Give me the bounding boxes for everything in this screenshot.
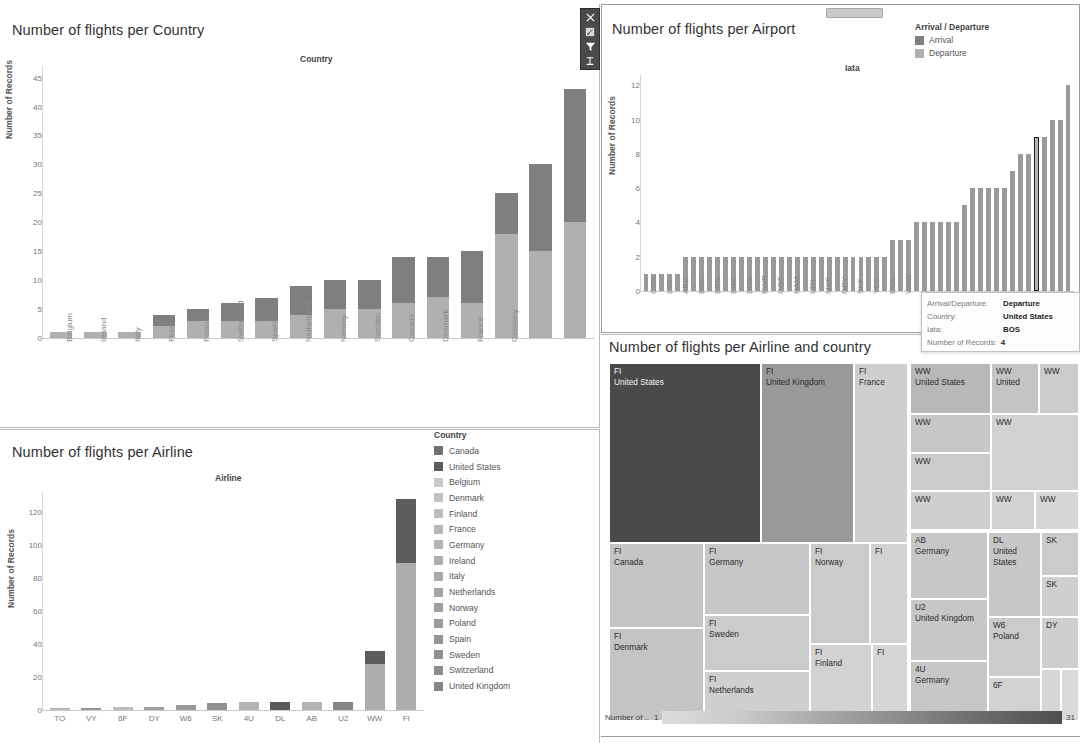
airline-bars[interactable] [44, 492, 422, 710]
x-axis-label[interactable]: Belgium [65, 313, 74, 342]
treemap-color-legend[interactable]: Number of .. 1 31 [605, 711, 1075, 724]
treemap-tile[interactable]: FIUnited Kingdom [761, 363, 854, 543]
treemap-tile[interactable]: DLUnited States [988, 532, 1041, 617]
legend-item[interactable]: Poland [434, 616, 584, 632]
x-axis-label[interactable]: BGO [697, 276, 706, 294]
table-row[interactable] [946, 222, 951, 291]
bar-segment[interactable] [239, 702, 259, 710]
table-row[interactable] [851, 257, 856, 291]
bar-segment[interactable] [365, 664, 385, 710]
bar-segment-arrival[interactable] [529, 164, 552, 251]
treemap-tile[interactable]: WWUnited [991, 363, 1039, 414]
legend-item[interactable]: Switzerland [434, 663, 584, 679]
x-axis-label[interactable]: GOT [776, 277, 785, 294]
country-bars[interactable] [44, 66, 592, 338]
table-row[interactable] [739, 257, 744, 291]
treemap-tile[interactable]: FICanada [609, 543, 704, 628]
legend-item[interactable]: Sweden [434, 647, 584, 663]
viz-context-toolbar[interactable] [580, 8, 600, 70]
close-icon[interactable] [583, 11, 597, 24]
treemap-tiles[interactable]: FIUnited StatesFIUnited KingdomFIFranceF… [609, 363, 1079, 701]
x-axis-label[interactable]: LYS [665, 279, 674, 294]
x-axis-label[interactable]: VY [76, 714, 108, 723]
treemap-tile[interactable]: FISweden [704, 615, 810, 671]
x-axis-label[interactable]: France [476, 317, 485, 342]
bar-segment-arrival[interactable] [358, 280, 381, 309]
bar-segment[interactable] [302, 702, 322, 710]
selected-bar[interactable] [1034, 137, 1039, 291]
x-axis-label[interactable]: AB [296, 714, 328, 723]
legend-item[interactable]: Belgium [434, 474, 584, 490]
x-axis-label[interactable]: WAW [904, 274, 913, 294]
x-axis-label[interactable]: MXP [824, 277, 833, 294]
table-row[interactable] [723, 257, 728, 291]
treemap-tile[interactable]: WW [991, 414, 1079, 491]
country-chart-panel[interactable]: Number of flights per Country Country Nu… [0, 4, 600, 428]
treemap-tile[interactable]: WW [991, 491, 1035, 530]
x-axis-label[interactable]: U2 [328, 714, 360, 723]
bar-segment-departure[interactable] [564, 222, 587, 338]
x-axis-label[interactable]: Italy [133, 327, 142, 342]
legend-item[interactable]: France [434, 521, 584, 537]
bar-segment-arrival[interactable] [324, 280, 347, 309]
x-axis-label[interactable]: HAM [792, 276, 801, 294]
bar-segment[interactable] [396, 563, 416, 710]
x-axis-label[interactable]: SXF [856, 278, 865, 294]
country-color-legend[interactable]: Country CanadaUnited StatesBelgiumDenmar… [434, 430, 584, 694]
table-row[interactable] [962, 205, 967, 291]
table-row[interactable] [970, 188, 975, 291]
legend-item[interactable]: Ireland [434, 553, 584, 569]
x-axis-label[interactable]: 4U [233, 714, 265, 723]
legend-item[interactable]: Netherlands [434, 584, 584, 600]
x-axis-label[interactable]: Norway [339, 315, 348, 342]
x-axis-label[interactable]: TO [44, 714, 76, 723]
airline-x-axis-labels[interactable]: TOVY6FDYW6SK4UDLABU2WWFI [44, 714, 422, 730]
treemap-tile[interactable]: FIGermany [704, 543, 810, 615]
x-axis-label[interactable]: FI [391, 714, 423, 723]
treemap-tile[interactable]: FIDenmark [609, 628, 704, 721]
x-axis-label[interactable]: BHX [729, 278, 738, 294]
table-row[interactable] [691, 257, 696, 291]
legend-item[interactable]: United Kingdom [434, 678, 584, 694]
x-axis-label[interactable]: 6F [107, 714, 139, 723]
table-row[interactable] [1066, 85, 1071, 291]
x-axis-label[interactable]: BRS [713, 278, 722, 294]
legend-item-arrival[interactable]: Arrival [915, 35, 1045, 45]
legend-item[interactable]: Denmark [434, 490, 584, 506]
treemap-tile[interactable]: WWUnited States [910, 363, 991, 414]
x-axis-label[interactable]: Denmark [441, 310, 450, 342]
treemap-tile[interactable]: W6Poland [988, 617, 1041, 677]
table-row[interactable] [819, 257, 824, 291]
treemap-panel[interactable]: Number of flights per Airline and countr… [601, 334, 1080, 743]
x-axis-label[interactable]: Canada [407, 314, 416, 342]
table-row[interactable] [239, 702, 259, 710]
sort-icon[interactable] [583, 54, 597, 67]
treemap-tile[interactable]: WW [910, 453, 991, 491]
table-row[interactable] [914, 222, 919, 291]
treemap-tile[interactable]: WW [1039, 363, 1079, 414]
x-axis-label[interactable]: Poland [202, 317, 211, 342]
treemap-tile[interactable]: FIFrance [854, 363, 908, 543]
x-axis-label[interactable]: Netherlands [304, 299, 313, 342]
table-row[interactable] [938, 222, 943, 291]
table-row[interactable] [1026, 154, 1031, 291]
bar-segment[interactable] [207, 703, 227, 710]
x-axis-label[interactable]: Finland [167, 316, 176, 342]
legend-item[interactable]: Italy [434, 569, 584, 585]
table-row[interactable] [835, 257, 840, 291]
legend-item[interactable]: Germany [434, 537, 584, 553]
x-axis-label[interactable]: WW [359, 714, 391, 723]
table-row[interactable] [529, 164, 552, 338]
table-row[interactable] [270, 702, 290, 710]
bar-segment[interactable] [333, 702, 353, 710]
table-row[interactable] [986, 188, 991, 291]
bar-segment[interactable] [270, 702, 290, 710]
bar-segment-arrival[interactable] [427, 257, 450, 298]
table-row[interactable] [882, 257, 887, 291]
bar-segment-departure[interactable] [529, 251, 552, 338]
table-row[interactable] [994, 188, 999, 291]
arrival-departure-legend[interactable]: Arrival / Departure Arrival Departure [915, 22, 1045, 58]
exclude-filter-icon[interactable] [583, 40, 597, 53]
treemap-tile[interactable]: FINorway [810, 543, 870, 644]
treemap-tile[interactable]: U2United Kingdom [910, 599, 988, 661]
